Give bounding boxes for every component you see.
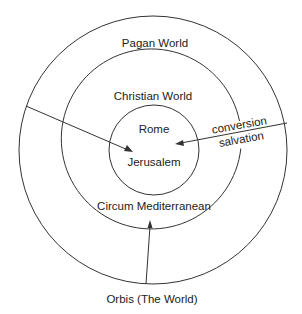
caption-orbis: Orbis (The World) (106, 293, 197, 305)
left-arrowhead-icon (124, 145, 133, 152)
left-arrow-line (26, 106, 128, 150)
label-rome: Rome (139, 123, 170, 135)
bottom-arrowhead-icon (148, 220, 153, 228)
label-christian-world: Christian World (114, 90, 192, 102)
label-pagan-world: Pagan World (122, 37, 188, 49)
outer-ring-pagan-world (19, 16, 287, 284)
label-jerusalem: Jerusalem (127, 156, 180, 168)
label-circum-mediterranean: Circum Mediterranean (97, 200, 211, 212)
inner-ring-rome-jerusalem (109, 105, 199, 195)
bottom-arrow-line (146, 226, 150, 284)
right-arrowhead-icon (175, 140, 184, 146)
concentric-worlds-diagram: Pagan World Christian World Rome Jerusal… (0, 0, 302, 314)
